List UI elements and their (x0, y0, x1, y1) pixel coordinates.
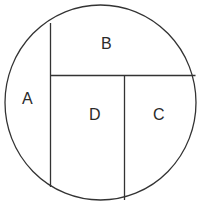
region-a-label: A (22, 90, 33, 107)
region-b-label: B (101, 35, 112, 52)
region-d-label: D (89, 106, 101, 123)
circle-diagram: A B C D (0, 0, 199, 201)
region-c-label: C (153, 106, 165, 123)
